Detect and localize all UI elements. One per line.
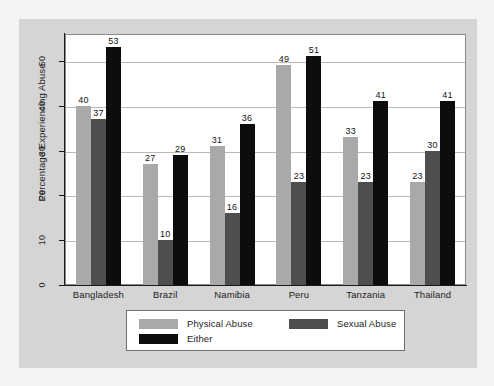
bar-value-label: 10 [160,229,170,239]
bar[interactable]: 23 [410,182,425,285]
bar-group: 311636 [210,34,255,285]
legend-entry-physical-abuse[interactable]: Physical Abuse [139,318,289,329]
x-tick-label: Brazil [132,288,199,302]
legend-label-physical-abuse: Physical Abuse [187,318,253,329]
figure-panel: 01020304050 Percentage Experiencing Abus… [19,19,477,368]
legend-swatch-icon-physical-abuse [139,319,178,329]
bar[interactable]: 16 [225,213,240,285]
legend-label-either: Either [187,333,212,344]
bar[interactable]: 33 [343,137,358,285]
bar[interactable]: 27 [143,164,158,285]
bar-group: 233041 [410,34,455,285]
x-axis-line [64,285,467,286]
bar[interactable]: 37 [91,119,106,285]
bar-value-label: 51 [309,45,319,55]
bar-value-label: 41 [442,90,452,100]
chart-legend: Physical Abuse Sexual Abuse Either [126,310,405,351]
x-tick-label: Bangladesh [65,288,132,302]
bar-value-label: 36 [242,113,252,123]
bar-value-label: 29 [175,144,185,154]
legend-row: Physical Abuse Sexual Abuse [139,316,404,331]
legend-swatch-icon-either [139,334,178,344]
bar-value-label: 37 [93,108,103,118]
bar[interactable]: 30 [425,151,440,285]
bar-value-label: 27 [145,153,155,163]
legend-entry-sexual-abuse[interactable]: Sexual Abuse [289,318,396,329]
bar-value-label: 30 [427,140,437,150]
bar[interactable]: 53 [106,47,121,285]
bar[interactable]: 36 [240,124,255,285]
y-axis-title: Percentage Experiencing Abuse [36,43,47,223]
x-tick-label: Peru [266,288,333,302]
bar[interactable]: 10 [158,240,173,285]
bar-value-label: 33 [346,126,356,136]
bar-group: 271029 [143,34,188,285]
bar[interactable]: 41 [373,101,388,285]
bar[interactable]: 31 [210,146,225,285]
bar-value-label: 16 [227,202,237,212]
y-tick-mark [59,285,65,286]
bar-group: 332341 [343,34,388,285]
x-axis-labels: BangladeshBrazilNamibiaPeruTanzaniaThail… [65,288,466,304]
bar[interactable]: 23 [358,182,373,285]
legend-entry-either[interactable]: Either [139,333,289,344]
legend-swatch-icon-sexual-abuse [289,319,328,329]
bar-value-label: 40 [78,95,88,105]
bar-value-label: 23 [294,171,304,181]
bar-value-label: 49 [279,54,289,64]
y-tick-label: 0 [37,274,47,296]
bar-value-label: 53 [108,36,118,46]
bar[interactable]: 40 [76,106,91,285]
bar-group: 403753 [76,34,121,285]
bar-value-label: 23 [361,171,371,181]
bar-value-label: 31 [212,135,222,145]
x-tick-label: Tanzania [332,288,399,302]
bar[interactable]: 41 [440,101,455,285]
x-tick-label: Thailand [399,288,466,302]
y-tick-label: 10 [37,229,47,251]
bar-value-label: 23 [412,171,422,181]
bar[interactable]: 29 [173,155,188,285]
x-tick-label: Namibia [199,288,266,302]
bar[interactable]: 23 [291,182,306,285]
bar-series-layer: 403753271029311636492351332341233041 [65,34,466,285]
bar-value-label: 41 [376,90,386,100]
bar[interactable]: 51 [306,56,321,285]
bar-group: 492351 [276,34,321,285]
legend-row: Either [139,331,404,346]
legend-label-sexual-abuse: Sexual Abuse [337,318,396,329]
bar[interactable]: 49 [276,65,291,285]
